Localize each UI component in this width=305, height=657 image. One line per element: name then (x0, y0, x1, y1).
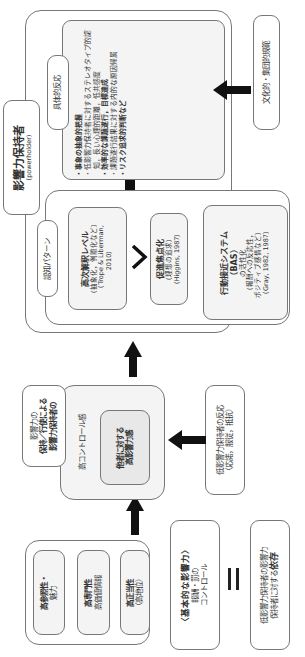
source-expert-sub: 高価値情報 (94, 575, 103, 610)
culture-norms-text: 文化的・集団的規範 (262, 41, 271, 104)
high-influence-sense-box: 他者に対する 高影響力感 (100, 410, 150, 485)
bas-box: 行動接近システム （BAS） の活性化 （報酬への反応性， ポジティブ感情など）… (203, 205, 288, 320)
source-expert: 高専門性 高価値情報 (77, 550, 110, 635)
basic-influence-title: 〈基本的な影響力〉 (180, 545, 191, 626)
control-label-line3: 影響力保持者の (49, 402, 58, 451)
concrete-label-text: 具体的反応 (53, 75, 62, 110)
culture-norms-box: 文化的・集団的規範 (253, 15, 280, 130)
promotion-line2: （Higgins, 1987） (174, 230, 182, 289)
high-influence-line2: 高影響力感 (125, 430, 134, 465)
control-label-line2: 保持／行使による (39, 398, 48, 454)
source-legitimate: 高正当性 （高地位） (120, 550, 150, 635)
influence-diagram: 高参照性・ 魅力 高専門性 高価値情報 高正当性 （高地位） 〈基本的な影響力〉… (0, 0, 305, 657)
source-referent-title: 高参照性・ (40, 575, 49, 610)
high-control-title: 高コントロール感 (78, 392, 87, 492)
concrete-label: 具体的反応 (47, 55, 69, 130)
source-referent: 高参照性・ 魅力 (33, 550, 65, 635)
high-influence-line1: 他者に対する (116, 427, 125, 469)
promotion-focus-box: 促進焦点化 （理想の追求） （Higgins, 1987） (150, 213, 188, 305)
source-expert-title: 高専門性 (84, 579, 93, 607)
dependence-box: 低影響力保持者の影響力 保持者に対する依存 (250, 520, 290, 650)
dependence-bold: 依存 (269, 552, 279, 570)
dependence-line1: 低影響力保持者の影響力 (260, 547, 269, 624)
control-label-box: 影響力の 保持／行使による 影響力保持者の (22, 385, 66, 467)
concrete-item: リスク追求的判断など (119, 27, 128, 169)
chevron-down-icon (131, 244, 148, 270)
low-reaction-line1: 低影響力保持者の反応 (216, 405, 225, 475)
powerholder-label: 影響力保持者 (powerholder) (3, 100, 40, 215)
control-label-line1: 影響力の (30, 412, 39, 440)
cognitive-pattern-label: 認知パターン (37, 220, 58, 297)
basic-influence-line2: コントロール (200, 564, 209, 606)
concrete-item: 効率的な課題遂行，目標達成 (101, 27, 110, 169)
source-referent-sub: 魅力 (49, 586, 58, 600)
arrow-right-icon (124, 341, 142, 377)
construal-level-box: 高次解釈レベル （抽象化，例離化など） （Trope & Liberman, 2… (68, 207, 127, 310)
arrow-up-icon (168, 430, 206, 450)
bas-title: 行動接近システム (220, 231, 230, 295)
concrete-item: 課題遂行結果に対する内的な原因帰属 (110, 27, 119, 169)
concrete-reactions-box: 事象の抽象的把握 低影響力保持者に対するステレオタイプ的認知，長い心理的距離，低… (62, 20, 225, 180)
arrow-up-icon (213, 80, 251, 100)
basic-influence-box: 〈基本的な影響力〉 報酬・罰の コントロール (170, 520, 220, 650)
powerholder-title: 影響力保持者 (10, 125, 26, 191)
source-legitimate-sub: （高地位） (135, 575, 144, 610)
bas-line5: （Gray, 1982, 1987） (263, 227, 271, 298)
cognitive-pattern-label-text: 認知パターン (43, 238, 52, 280)
source-legitimate-title: 高正当性 (126, 579, 135, 607)
dependence-line2: 保持者に対する (270, 570, 279, 619)
construal-line3: 2010） (106, 247, 114, 271)
equals-icon (226, 568, 242, 590)
arrow-right-icon (126, 495, 144, 535)
low-reaction-line2: （応諾，服従，抵抗） (225, 405, 234, 475)
basic-influence-line1: 報酬・罰の (191, 568, 200, 603)
low-reaction-box: 低影響力保持者の反応 （応諾，服従，抵抗） (205, 385, 245, 495)
powerholder-subtitle: (powerholder) (26, 135, 34, 181)
concrete-item: 事象の抽象的把握 (75, 27, 84, 169)
concrete-item: 低影響力保持者に対するステレオタイプ的認知，長い心理的距離，低共感度 (84, 27, 102, 169)
